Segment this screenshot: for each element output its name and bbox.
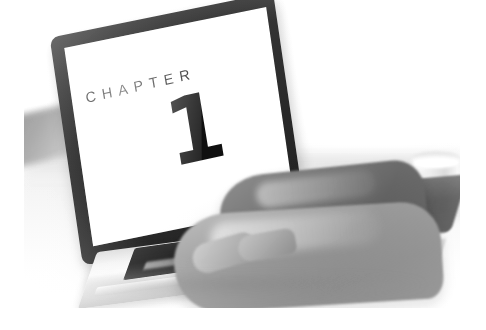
- laptop-desk-shadow: [84, 276, 424, 298]
- chapter-opener-photograph: CHAPTER 1: [24, 0, 460, 308]
- chapter-number: 1: [160, 83, 231, 178]
- page-canvas: CHAPTER 1: [0, 0, 486, 330]
- laptop: CHAPTER 1: [24, 0, 460, 308]
